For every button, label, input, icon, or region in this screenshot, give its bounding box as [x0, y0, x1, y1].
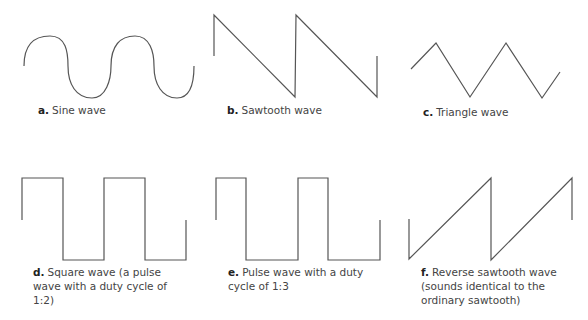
caption-letter: b.: [227, 104, 239, 116]
caption-text: Sine wave: [52, 104, 106, 116]
sine-wave-shape: [24, 36, 194, 98]
square-wave-shape: [22, 178, 186, 260]
caption-letter: a.: [38, 104, 49, 116]
caption-d: d.Square wave (a pulse wave with a duty …: [33, 265, 183, 307]
caption-f: f.Reverse sawtooth wave (sounds identica…: [421, 265, 561, 307]
caption-text: Triangle wave: [436, 106, 508, 118]
caption-letter: c.: [423, 106, 433, 118]
caption-letter: f.: [421, 266, 429, 278]
sawtooth-wave-shape: [214, 15, 377, 97]
triangle-wave-shape: [411, 43, 560, 98]
pulse-wave-shape: [216, 178, 380, 260]
caption-text: Square wave (a pulse wave with a duty cy…: [33, 266, 167, 306]
caption-text: Pulse wave with a duty cycle of 1:3: [228, 266, 363, 292]
caption-c: c.Triangle wave: [423, 105, 573, 119]
reverse-sawtooth-wave-shape: [409, 178, 572, 260]
caption-b: b.Sawtooth wave: [227, 103, 377, 117]
caption-text: Reverse sawtooth wave (sounds identical …: [421, 266, 557, 306]
caption-e: e.Pulse wave with a duty cycle of 1:3: [228, 265, 378, 293]
caption-text: Sawtooth wave: [242, 104, 322, 116]
caption-letter: e.: [228, 266, 239, 278]
caption-a: a.Sine wave: [38, 103, 188, 117]
caption-letter: d.: [33, 266, 45, 278]
